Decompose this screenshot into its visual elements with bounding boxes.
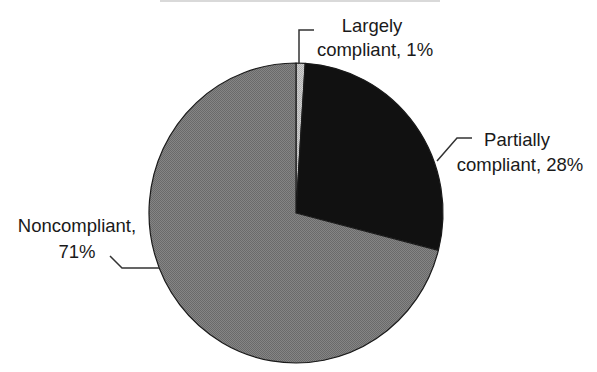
leader-line-noncompliant [110,256,159,268]
label-noncompliant-line2: 71% [58,241,95,262]
slice-label-noncompliant: Noncompliant, 71% [18,215,136,262]
slice-label-partially: Partially compliant, 28% [457,129,583,175]
label-largely-line1: Largely [342,15,403,36]
label-partially-line1: Partially [484,129,551,150]
chart-title-cropped [160,0,440,2]
label-noncompliant-line1: Noncompliant, [18,215,136,236]
label-partially-line2: compliant, 28% [457,154,583,175]
slice-label-largely: Largely compliant, 1% [317,15,433,60]
label-largely-line2: compliant, 1% [317,39,433,60]
pie-chart: Largely compliant, 1% Partially complian… [0,0,597,372]
leader-line-largely [299,30,314,64]
pie-slices [149,63,443,363]
